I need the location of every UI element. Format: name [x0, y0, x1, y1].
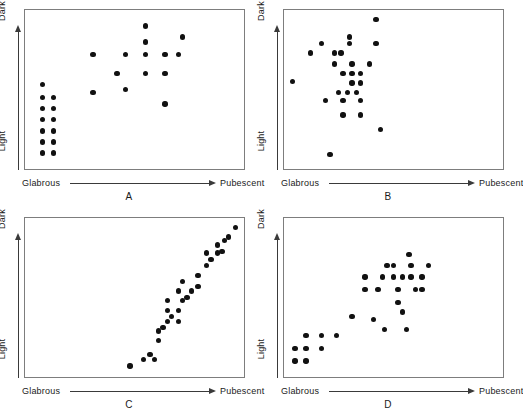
data-point [380, 274, 385, 279]
data-points-a [25, 10, 244, 169]
data-point [391, 274, 396, 279]
data-point [358, 98, 363, 103]
x-axis-b: Glabrous Pubescent [283, 178, 504, 190]
data-point [345, 90, 350, 95]
plot-frame-b [283, 9, 504, 170]
panel-caption-a: A [0, 191, 258, 202]
data-point [180, 34, 185, 39]
data-point [358, 112, 363, 117]
panel-caption-c: C [0, 399, 258, 410]
y-axis-a [17, 9, 19, 170]
data-point [334, 333, 339, 338]
x-axis-shaft [329, 391, 469, 392]
x-axis-shaft [70, 183, 210, 184]
data-point [426, 263, 431, 268]
data-point [375, 287, 380, 292]
data-point [40, 95, 45, 100]
data-point [354, 90, 359, 95]
x-axis-right-label: Pubescent [220, 386, 264, 396]
y-axis-bottom-label: Light [0, 331, 7, 367]
data-point [51, 106, 56, 111]
data-point [169, 314, 174, 319]
data-point [373, 17, 378, 22]
data-point [332, 61, 337, 66]
data-point [165, 308, 170, 313]
x-axis-right-label: Pubescent [479, 386, 523, 396]
y-axis-d [276, 217, 278, 378]
data-point [143, 23, 148, 28]
data-point [143, 71, 148, 76]
x-axis-left-label: Glabrous [22, 386, 60, 396]
data-point [323, 98, 328, 103]
data-point [336, 90, 341, 95]
x-axis-arrowhead-icon [468, 180, 475, 186]
data-point [176, 308, 181, 313]
data-point [51, 139, 56, 144]
data-point [340, 98, 345, 103]
y-axis-top-label: Dark [0, 201, 7, 237]
data-point [290, 79, 295, 84]
data-point [156, 338, 161, 343]
data-point [204, 263, 209, 268]
data-point [90, 90, 95, 95]
data-point [303, 358, 308, 363]
data-point [127, 363, 132, 368]
data-point [292, 358, 297, 363]
data-point [176, 52, 181, 57]
y-axis-c [17, 217, 19, 378]
data-point [51, 117, 56, 122]
x-axis-left-label: Glabrous [281, 178, 319, 188]
data-point [184, 295, 189, 300]
panel-c: Dark Light Glabrous Pubescent C [0, 208, 258, 416]
data-point [408, 263, 413, 268]
data-point [147, 352, 152, 357]
y-axis-shaft [18, 31, 19, 170]
data-point [382, 327, 387, 332]
data-point [340, 71, 345, 76]
panel-a: Dark Light Glabrous Pubescent A [0, 0, 258, 208]
data-point [160, 325, 165, 330]
panel-d: Dark Light Glabrous Pubescent D [259, 208, 517, 416]
data-point [143, 52, 148, 57]
data-point [303, 333, 308, 338]
data-point [362, 287, 367, 292]
y-axis-top-label: Dark [0, 0, 7, 29]
data-point [358, 71, 363, 76]
data-point [349, 71, 354, 76]
data-points-c [25, 218, 244, 377]
panel-caption-b: B [259, 191, 517, 202]
data-point [406, 252, 411, 257]
data-point [176, 288, 181, 293]
x-axis-a: Glabrous Pubescent [24, 178, 245, 190]
data-point [226, 234, 231, 239]
data-point [413, 287, 418, 292]
data-point [319, 346, 324, 351]
x-axis-d: Glabrous Pubescent [283, 386, 504, 398]
x-axis-arrowhead-icon [209, 388, 216, 394]
x-axis-right-label: Pubescent [220, 178, 264, 188]
y-axis-b [276, 9, 278, 170]
y-axis-shaft [18, 239, 19, 378]
data-point [208, 257, 213, 262]
data-point [162, 52, 167, 57]
data-point [327, 152, 332, 157]
panel-b: Dark Light Glabrous Pubescent B [259, 0, 517, 208]
data-point [319, 333, 324, 338]
x-axis-shaft [70, 391, 210, 392]
data-point [143, 39, 148, 44]
data-point [395, 287, 400, 292]
plot-frame-c [24, 217, 245, 378]
data-point [219, 249, 224, 254]
data-point [419, 274, 424, 279]
data-point [195, 273, 200, 278]
data-point [40, 139, 45, 144]
y-axis-top-label: Dark [256, 201, 266, 237]
y-axis-bottom-label: Light [0, 123, 7, 159]
data-point [349, 314, 354, 319]
data-point [152, 357, 157, 362]
data-point [371, 317, 376, 322]
data-point [391, 263, 396, 268]
data-point [176, 319, 181, 324]
data-point [419, 287, 424, 292]
